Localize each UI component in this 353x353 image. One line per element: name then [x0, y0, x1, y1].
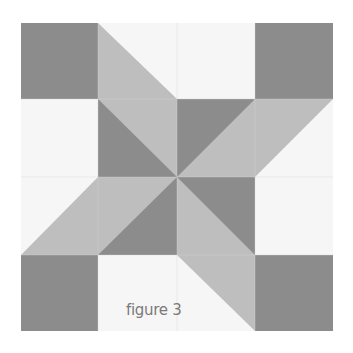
quilt-cell — [177, 23, 255, 99]
quilt-cell — [21, 99, 98, 177]
quilt-cell — [255, 99, 333, 177]
quilt-cell — [98, 255, 177, 331]
quilt-cell — [21, 177, 98, 255]
quilt-cell — [21, 255, 98, 331]
quilt-cell — [177, 99, 255, 177]
quilt-cell — [98, 177, 177, 255]
quilt-cell — [98, 99, 177, 177]
quilt-cell — [21, 23, 98, 99]
quilt-cell — [177, 177, 255, 255]
quilt-cell — [177, 255, 255, 331]
figure-caption: figure 3 — [126, 301, 181, 319]
quilt-cell — [255, 23, 333, 99]
quilt-cell — [255, 255, 333, 331]
quilt-cell — [98, 23, 177, 99]
quilt-cell — [255, 177, 333, 255]
